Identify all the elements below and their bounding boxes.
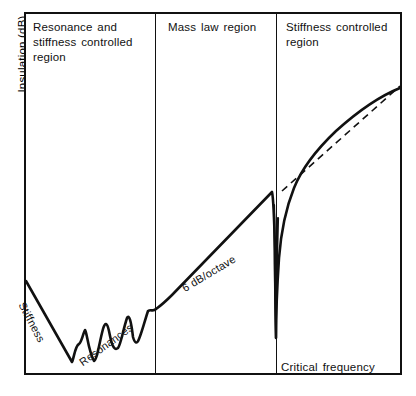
annotation-critical-frequency: Critical frequency	[281, 361, 375, 373]
region-label-mass-law: Mass law region	[168, 20, 272, 35]
diagram-canvas: Insulation (dB) Resonance and stiffness …	[0, 0, 416, 396]
region-label-stiffness-controlled: Stiffness controlled region	[286, 20, 398, 50]
sound-insulation-curve	[26, 88, 400, 362]
region-label-resonance-stiffness: Resonance and stiffness controlled regio…	[33, 20, 151, 65]
